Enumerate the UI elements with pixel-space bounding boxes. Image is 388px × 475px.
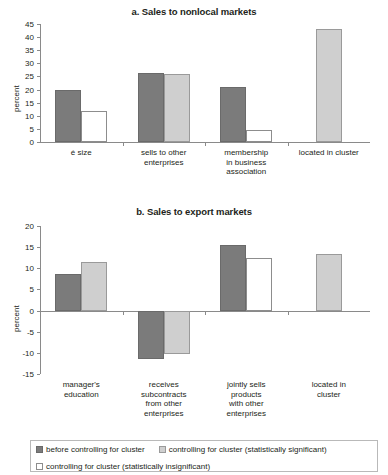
category-label: jointly sellsproductswith otherenterpris… bbox=[199, 380, 294, 418]
chart-panel-b: b. Sales to export markets -15-10-505101… bbox=[0, 200, 388, 435]
legend-item-insignificant: controlling for cluster (statistically i… bbox=[36, 462, 210, 471]
y-axis-tick-label: 10 bbox=[12, 264, 34, 273]
category-label: manager'seducation bbox=[34, 380, 129, 399]
y-axis-tick bbox=[37, 374, 40, 375]
legend-label-significant: controlling for cluster (statistically s… bbox=[169, 445, 327, 454]
legend-row-2: controlling for cluster (statistically i… bbox=[36, 462, 372, 475]
y-axis-tick-label: -10 bbox=[12, 348, 34, 357]
y-axis-tick-label: 35 bbox=[12, 46, 34, 55]
y-axis-tick bbox=[37, 129, 40, 130]
category-label-line: enterprises bbox=[199, 409, 294, 419]
category-label-line: subcontracts bbox=[117, 390, 212, 400]
y-axis-tick bbox=[37, 103, 40, 104]
y-axis-tick bbox=[37, 24, 40, 25]
category-label-line: manager's bbox=[34, 380, 129, 390]
y-axis-tick-label: 40 bbox=[12, 33, 34, 42]
y-axis-tick bbox=[37, 142, 40, 143]
category-label-line: sells to other bbox=[117, 148, 212, 158]
category-label-line: membership bbox=[199, 148, 294, 158]
y-axis-tick bbox=[37, 90, 40, 91]
y-axis-tick bbox=[37, 76, 40, 77]
category-label-line: products bbox=[199, 390, 294, 400]
chart-b-plot-area: -15-10-505101520 bbox=[40, 226, 370, 374]
y-axis-tick-label: 20 bbox=[12, 222, 34, 231]
category-label: é size bbox=[34, 148, 129, 158]
category-label-line: é size bbox=[34, 148, 129, 158]
y-axis-tick bbox=[37, 332, 40, 333]
y-axis-tick bbox=[37, 353, 40, 354]
y-axis-line bbox=[40, 226, 41, 374]
category-label-line: jointly sells bbox=[199, 380, 294, 390]
category-separator-tick bbox=[123, 311, 124, 315]
bar bbox=[81, 262, 107, 311]
category-label-line: located in cluster bbox=[282, 148, 377, 158]
category-label-line: from other bbox=[117, 399, 212, 409]
y-axis-tick-label: 5 bbox=[12, 285, 34, 294]
category-separator-tick bbox=[288, 142, 289, 146]
category-label: sells to otherenterprises bbox=[117, 148, 212, 167]
legend-label-before-controlling: before controlling for cluster bbox=[46, 445, 145, 454]
category-label-line: education bbox=[34, 390, 129, 400]
category-separator-tick bbox=[205, 142, 206, 146]
legend-swatch-dark-icon bbox=[36, 446, 43, 453]
category-label: membershipin businessassociation bbox=[199, 148, 294, 177]
category-label-line: in business bbox=[199, 158, 294, 168]
bar bbox=[246, 258, 272, 310]
category-label-line: enterprises bbox=[117, 409, 212, 419]
y-axis-tick bbox=[37, 289, 40, 290]
category-label: located in cluster bbox=[282, 148, 377, 158]
y-axis-tick-label: 30 bbox=[12, 59, 34, 68]
figure-legend: before controlling for cluster controlli… bbox=[30, 440, 378, 472]
y-axis-tick bbox=[37, 226, 40, 227]
bar bbox=[138, 73, 164, 142]
y-axis-tick-label: 25 bbox=[12, 72, 34, 81]
category-label: receivessubcontractsfrom otherenterprise… bbox=[117, 380, 212, 418]
category-label: located incluster bbox=[282, 380, 377, 399]
category-separator-tick bbox=[123, 142, 124, 146]
bar bbox=[164, 74, 190, 142]
bar bbox=[316, 254, 342, 310]
chart-b-title: b. Sales to export markets bbox=[0, 206, 388, 217]
y-axis-tick-label: 45 bbox=[12, 20, 34, 29]
legend-swatch-open-icon bbox=[36, 463, 43, 470]
category-label-line: cluster bbox=[282, 390, 377, 400]
y-axis-tick bbox=[37, 50, 40, 51]
bar bbox=[220, 245, 246, 311]
y-axis-tick-label: 15 bbox=[12, 243, 34, 252]
bar bbox=[55, 274, 81, 311]
bar bbox=[164, 311, 190, 355]
category-label-line: located in bbox=[282, 380, 377, 390]
legend-label-insignificant: controlling for cluster (statistically i… bbox=[46, 462, 210, 471]
chart-a-plot-area: 051015202530354045 bbox=[40, 24, 370, 142]
y-axis-tick bbox=[37, 63, 40, 64]
legend-item-significant: controlling for cluster (statistically s… bbox=[159, 445, 327, 454]
bar bbox=[138, 311, 164, 360]
chart-a-title: a. Sales to nonlocal markets bbox=[0, 6, 388, 17]
category-label-line: enterprises bbox=[117, 158, 212, 168]
bar bbox=[316, 29, 342, 142]
category-separator-tick bbox=[205, 311, 206, 315]
y-axis-tick-label: 5 bbox=[12, 124, 34, 133]
y-axis-tick-label: -15 bbox=[12, 370, 34, 379]
chart-a-y-axis-label: percent bbox=[12, 85, 21, 112]
bar bbox=[55, 90, 81, 142]
legend-swatch-light-icon bbox=[159, 446, 166, 453]
category-label-line: association bbox=[199, 167, 294, 177]
y-axis-line bbox=[40, 24, 41, 142]
category-label-line: receives bbox=[117, 380, 212, 390]
y-axis-tick bbox=[37, 116, 40, 117]
bar bbox=[220, 87, 246, 142]
chart-b-y-axis-label: percent bbox=[12, 305, 21, 332]
y-axis-tick bbox=[37, 247, 40, 248]
y-axis-tick bbox=[37, 311, 40, 312]
y-axis-tick-label: 0 bbox=[12, 138, 34, 147]
legend-row-1: before controlling for cluster controlli… bbox=[36, 445, 372, 458]
y-axis-tick-label: 10 bbox=[12, 111, 34, 120]
category-separator-tick bbox=[288, 311, 289, 315]
y-axis-tick bbox=[37, 37, 40, 38]
bar bbox=[246, 130, 272, 142]
legend-item-before-controlling: before controlling for cluster bbox=[36, 445, 145, 454]
y-axis-tick bbox=[37, 268, 40, 269]
figure-root: a. Sales to nonlocal markets 05101520253… bbox=[0, 0, 388, 475]
bar bbox=[81, 111, 107, 142]
